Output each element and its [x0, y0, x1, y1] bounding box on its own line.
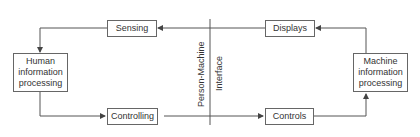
- controls-box: Controls: [265, 108, 314, 125]
- arrow-controls-to-machine: [314, 94, 366, 116]
- interface-label: Interface: [214, 56, 224, 91]
- sensing-label: Sensing: [116, 23, 149, 34]
- machine-information-processing-box: Machine information processing: [353, 53, 408, 92]
- displays-label: Displays: [273, 23, 307, 34]
- machine-information-processing-label: Machine information processing: [356, 56, 405, 89]
- controls-label: Controls: [273, 111, 307, 122]
- controlling-box: Controlling: [107, 108, 158, 125]
- sensing-box: Sensing: [107, 20, 157, 37]
- arrow-machine-to-displays: [316, 28, 366, 56]
- controlling-label: Controlling: [111, 111, 154, 122]
- human-information-processing-box: Human information processing: [13, 53, 68, 92]
- arrow-human-to-controlling: [40, 92, 105, 116]
- person-machine-label: Person-Machine: [196, 41, 206, 107]
- displays-box: Displays: [265, 20, 315, 37]
- arrow-sensing-to-human: [40, 28, 107, 52]
- human-information-processing-label: Human information processing: [16, 56, 65, 89]
